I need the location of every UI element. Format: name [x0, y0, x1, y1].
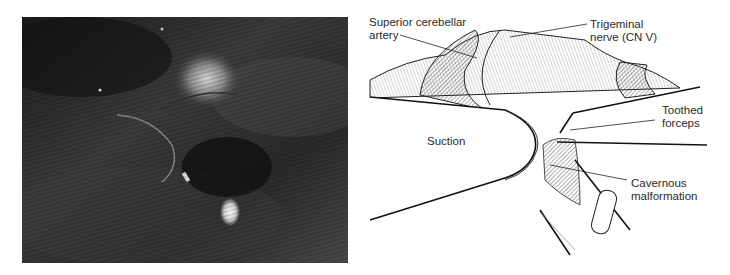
- surgical-illustration: Superior cerebellar artery Trigeminal ne…: [365, 0, 730, 275]
- photo-render: [22, 17, 348, 263]
- label-cavernous-malformation: Cavernous malformation: [631, 177, 697, 203]
- label-toothed-forceps: Toothed forceps: [662, 104, 703, 130]
- label-superior-cerebellar-artery: Superior cerebellar artery: [369, 16, 466, 42]
- label-suction: Suction: [427, 135, 465, 148]
- label-trigeminal-nerve: Trigeminal nerve (CN V): [590, 18, 657, 44]
- intraoperative-photo: [22, 17, 348, 263]
